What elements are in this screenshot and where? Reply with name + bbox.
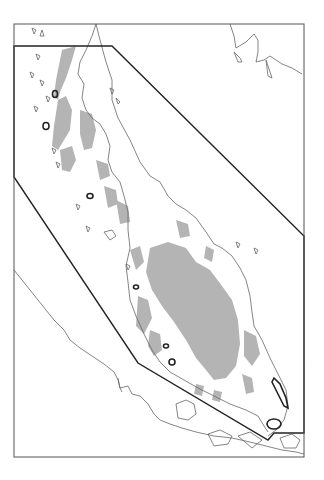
highland-areas <box>52 46 260 402</box>
map-svg <box>0 0 324 480</box>
map-canvas <box>0 0 324 480</box>
